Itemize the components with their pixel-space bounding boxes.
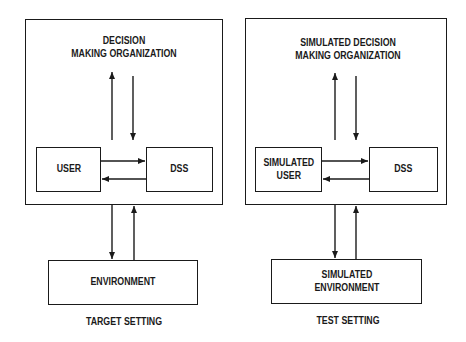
arrows-layer [0, 0, 466, 342]
